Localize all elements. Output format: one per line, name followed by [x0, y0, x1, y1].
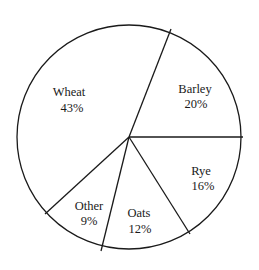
pie-chart: Wheat 43% Barley 20% Rye 16% Oats 12% Ot…	[0, 0, 259, 270]
slice-percent-barley: 20%	[185, 97, 208, 111]
slice-percent-other: 9%	[81, 214, 98, 228]
slice-label-barley: Barley	[178, 82, 212, 96]
slice-percent-rye: 16%	[192, 179, 215, 193]
slice-label-rye: Rye	[191, 164, 211, 178]
slice-percent-oats: 12%	[129, 222, 152, 236]
slice-label-other: Other	[75, 199, 104, 213]
slice-label-wheat: Wheat	[53, 85, 86, 99]
slice-percent-wheat: 43%	[61, 101, 84, 115]
slice-label-oats: Oats	[128, 206, 151, 220]
